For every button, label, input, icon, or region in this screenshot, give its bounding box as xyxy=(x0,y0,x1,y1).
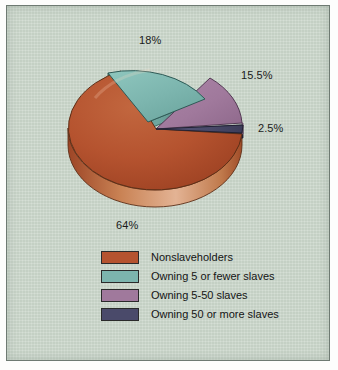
legend-swatch-nonslaveholders xyxy=(101,251,139,264)
pie-chart: 18% 15.5% 2.5% 64% Nonslaveholders Ownin… xyxy=(0,0,338,370)
legend-label-5-to-50: Owning 5-50 slaves xyxy=(151,289,248,302)
legend-swatch-5-to-50 xyxy=(101,289,139,302)
legend-swatch-50-or-more xyxy=(101,308,139,321)
pct-label-5-or-fewer: 18% xyxy=(139,34,161,46)
legend-label-50-or-more: Owning 50 or more slaves xyxy=(151,308,279,321)
legend-item-50-or-more[interactable]: Owning 50 or more slaves xyxy=(101,307,301,321)
pct-label-nonslaveholders: 64% xyxy=(116,219,138,231)
legend-label-5-or-fewer: Owning 5 or fewer slaves xyxy=(151,270,275,283)
legend-item-5-or-fewer[interactable]: Owning 5 or fewer slaves xyxy=(101,269,301,283)
figure-page: 18% 15.5% 2.5% 64% Nonslaveholders Ownin… xyxy=(0,0,338,370)
legend-label-nonslaveholders: Nonslaveholders xyxy=(151,251,233,264)
legend-item-nonslaveholders[interactable]: Nonslaveholders xyxy=(101,250,301,264)
pct-label-50-or-more: 2.5% xyxy=(258,122,283,134)
legend-item-5-to-50[interactable]: Owning 5-50 slaves xyxy=(101,288,301,302)
chart-legend: Nonslaveholders Owning 5 or fewer slaves… xyxy=(101,250,301,326)
pct-label-5-to-50: 15.5% xyxy=(241,69,273,81)
legend-swatch-5-or-fewer xyxy=(101,270,139,283)
